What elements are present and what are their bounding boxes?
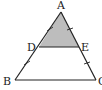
label-A: A xyxy=(56,0,66,12)
shaded-triangle-ADE xyxy=(39,12,79,47)
label-D: D xyxy=(27,41,36,54)
label-E: E xyxy=(81,41,89,54)
label-C: C xyxy=(98,75,102,88)
triangle-diagram: A D E B C xyxy=(0,0,102,90)
label-B: B xyxy=(3,75,11,88)
